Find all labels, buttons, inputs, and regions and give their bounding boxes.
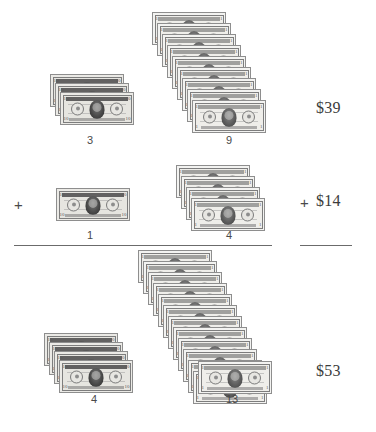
bill-denomination-corner: 1: [180, 169, 183, 174]
bill-denomination-corner: 1: [211, 265, 214, 270]
one-dollar-bill: 1 1 1 1: [191, 198, 265, 231]
bill-denomination-corner: 1: [172, 320, 175, 325]
bill-denomination-corner: 10: [126, 116, 131, 121]
plus-operator-amount-row-2: +: [300, 194, 309, 211]
bill-denomination-corner: 1: [157, 287, 160, 292]
bill-denomination-corner: 1: [152, 276, 155, 281]
ten-dollar-bill: 10 10 10 10: [56, 188, 130, 221]
bill-denomination-corner: 1: [177, 331, 180, 336]
bill-denomination-corner: 1: [259, 222, 262, 227]
bill-denomination-corner: 1: [231, 309, 234, 314]
bill-denomination-corner: 1: [241, 331, 244, 336]
bill-denomination-corner: 10: [64, 96, 69, 101]
bill-denomination-corner: 1: [156, 16, 159, 21]
ones-count-label-row-3: 13: [215, 393, 249, 405]
bill-denomination-corner: 1: [245, 71, 248, 76]
bill-denomination-corner: 1: [259, 202, 262, 207]
bill-denomination-corner: 1: [249, 180, 252, 185]
bill-denomination-corner: 1: [197, 395, 200, 400]
bill-denomination-corner: 1: [240, 60, 243, 65]
bill-denomination-corner: 10: [126, 96, 131, 101]
bill-denomination-corner: 1: [161, 27, 164, 32]
bill-denomination-corner: 10: [63, 364, 68, 369]
tens-count-label-row-2: 1: [73, 229, 107, 241]
ones-count-label-row-2: 4: [212, 229, 246, 241]
amount-label-row-2: $14: [316, 192, 341, 210]
bill-denomination-corner: 1: [260, 104, 263, 109]
bill-denomination-corner: 1: [202, 365, 205, 370]
bill-denomination-corner: 1: [250, 82, 253, 87]
bill-denomination-corner: 10: [64, 116, 69, 121]
bill-denomination-corner: 1: [216, 276, 219, 281]
bill-denomination-corner: 1: [221, 287, 224, 292]
bill-denomination-corner: 1: [202, 385, 205, 390]
amount-label-row-3: $53: [316, 362, 341, 380]
bill-denomination-corner: 1: [255, 93, 258, 98]
bill-denomination-corner: 1: [206, 254, 209, 259]
bill-denomination-corner: 1: [185, 180, 188, 185]
tens-count-label-row-3: 4: [77, 393, 111, 405]
bill-denomination-corner: 10: [60, 212, 65, 217]
bill-denomination-corner: 1: [244, 169, 247, 174]
bill-denomination-corner: 10: [60, 192, 65, 197]
bill-denomination-corner: 10: [125, 384, 130, 389]
bill-denomination-corner: 1: [246, 342, 249, 347]
bill-denomination-corner: 1: [192, 364, 195, 369]
addition-rule-amounts: [300, 245, 352, 246]
bill-denomination-corner: 1: [187, 353, 190, 358]
one-dollar-bill: 1 1 1 1: [192, 100, 266, 133]
bill-denomination-corner: 1: [251, 353, 254, 358]
bill-denomination-corner: 1: [235, 49, 238, 54]
bill-denomination-corner: 1: [166, 38, 169, 43]
bill-denomination-corner: 1: [226, 298, 229, 303]
amount-label-row-1: $39: [316, 99, 341, 117]
bill-denomination-corner: 1: [195, 222, 198, 227]
bill-denomination-corner: 1: [266, 385, 269, 390]
bill-denomination-corner: 10: [63, 384, 68, 389]
addition-rule-manipulatives: [14, 245, 272, 246]
tens-count-label-row-1: 3: [73, 134, 107, 146]
bill-denomination-corner: 10: [125, 364, 130, 369]
worksheet-canvas: 10 10 10 10 10 10 10 10 10 1: [0, 0, 376, 432]
bill-denomination-corner: 1: [176, 60, 179, 65]
bill-denomination-corner: 1: [147, 265, 150, 270]
bill-denomination-corner: 1: [220, 16, 223, 21]
ten-dollar-bill: 10 10 10 10: [60, 92, 134, 125]
bill-denomination-corner: 1: [162, 298, 165, 303]
bill-denomination-corner: 10: [122, 192, 127, 197]
bill-denomination-corner: 1: [167, 309, 170, 314]
bill-denomination-corner: 1: [261, 395, 264, 400]
bill-denomination-corner: 1: [186, 82, 189, 87]
plus-operator-row-2: +: [14, 196, 23, 213]
bill-denomination-corner: 1: [191, 93, 194, 98]
bill-denomination-corner: 1: [195, 202, 198, 207]
bill-denomination-corner: 1: [225, 27, 228, 32]
ten-dollar-bill: 10 10 10 10: [59, 360, 133, 393]
ones-count-label-row-1: 9: [212, 134, 246, 146]
bill-denomination-corner: 1: [230, 38, 233, 43]
bill-denomination-corner: 1: [236, 320, 239, 325]
bill-denomination-corner: 1: [196, 124, 199, 129]
bill-denomination-corner: 1: [171, 49, 174, 54]
bill-denomination-corner: 1: [142, 254, 145, 259]
bill-denomination-corner: 1: [182, 342, 185, 347]
bill-denomination-corner: 10: [122, 212, 127, 217]
bill-denomination-corner: 1: [181, 71, 184, 76]
bill-denomination-corner: 1: [266, 365, 269, 370]
bill-denomination-corner: 1: [260, 124, 263, 129]
bill-denomination-corner: 1: [254, 191, 257, 196]
one-dollar-bill: 1 1 1 1: [198, 361, 272, 394]
bill-denomination-corner: 1: [196, 104, 199, 109]
bill-denomination-corner: 1: [190, 191, 193, 196]
